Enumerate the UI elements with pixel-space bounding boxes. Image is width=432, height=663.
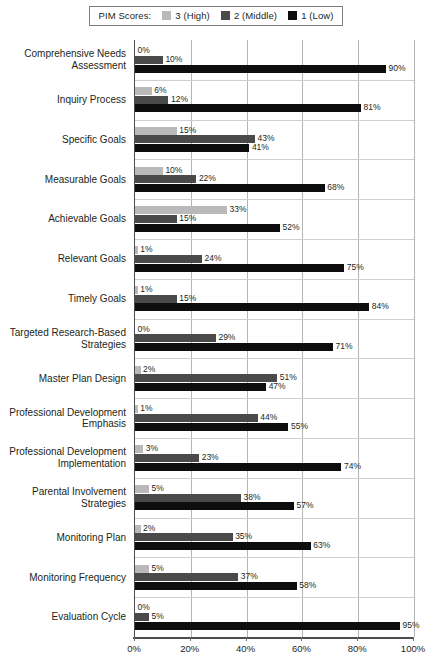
bar-series-2 xyxy=(135,414,258,422)
chart-row: 2%51%47% xyxy=(135,358,414,398)
bar-value-label: 52% xyxy=(283,223,300,231)
x-axis-line xyxy=(133,637,414,639)
x-axis-tick-label: 0% xyxy=(127,643,141,654)
chart-row: 6%12%81% xyxy=(135,80,414,120)
y-axis-category-label: Master Plan Design xyxy=(0,373,130,385)
x-axis-tick xyxy=(357,637,358,641)
bar-value-label: 90% xyxy=(389,64,406,72)
row-separator xyxy=(135,597,414,598)
bar-series-3 xyxy=(135,463,341,471)
bar-value-label: 63% xyxy=(313,541,330,549)
bar-value-label: 1% xyxy=(140,404,152,412)
bar-series-3 xyxy=(135,264,344,272)
y-axis-category-label: Specific Goals xyxy=(0,134,130,146)
bar-value-label: 41% xyxy=(252,143,269,151)
bar-series-1 xyxy=(135,525,141,533)
bar-series-1 xyxy=(135,246,138,254)
bar-value-label: 15% xyxy=(179,294,196,302)
bar-series-2 xyxy=(135,374,277,382)
bar-series-2 xyxy=(135,533,233,541)
bar-value-label: 47% xyxy=(269,382,286,390)
legend-label-1-low: 1 (Low) xyxy=(301,10,333,21)
bar-value-label: 71% xyxy=(336,342,353,350)
bar-value-label: 23% xyxy=(202,453,219,461)
bar-value-label: 44% xyxy=(260,413,277,421)
chart-row: 3%23%74% xyxy=(135,438,414,478)
row-separator xyxy=(135,557,414,558)
chart-row: 1%44%55% xyxy=(135,398,414,438)
y-axis-category-label: Relevant Goals xyxy=(0,253,130,265)
bar-value-label: 12% xyxy=(171,95,188,103)
bar-series-2 xyxy=(135,494,241,502)
bar-value-label: 33% xyxy=(230,205,247,213)
bar-series-2 xyxy=(135,295,177,303)
bar-series-2 xyxy=(135,613,149,621)
chart-row: 1%15%84% xyxy=(135,279,414,319)
legend-item-1-low: 1 (Low) xyxy=(288,10,333,21)
y-axis-category-label: Monitoring Frequency xyxy=(0,572,130,584)
bar-value-label: 1% xyxy=(140,285,152,293)
bar-value-label: 2% xyxy=(143,365,155,373)
bar-value-label: 0% xyxy=(138,603,150,611)
chart-row: 5%37%58% xyxy=(135,557,414,597)
bar-series-2 xyxy=(135,454,199,462)
bar-value-label: 29% xyxy=(218,333,235,341)
y-axis-category-label: Achievable Goals xyxy=(0,213,130,225)
bar-series-3 xyxy=(135,423,288,431)
bar-value-label: 22% xyxy=(199,174,216,182)
bar-series-3 xyxy=(135,303,369,311)
bar-value-label: 0% xyxy=(138,46,150,54)
bar-series-1 xyxy=(135,167,163,175)
chart-row: 15%43%41% xyxy=(135,120,414,160)
gridline xyxy=(414,40,415,637)
bar-value-label: 2% xyxy=(143,524,155,532)
y-axis-category-label: Timely Goals xyxy=(0,293,130,305)
y-axis-category-label: Evaluation Cycle xyxy=(0,611,130,623)
bar-series-1 xyxy=(135,405,138,413)
bar-value-label: 75% xyxy=(347,263,364,271)
chart-row: 0%29%71% xyxy=(135,319,414,359)
y-axis-category-label: Professional DevelopmentImplementation xyxy=(0,446,130,469)
chart-row: 0%10%90% xyxy=(135,40,414,80)
bar-series-2 xyxy=(135,215,177,223)
x-axis-tick-label: 60% xyxy=(292,643,311,654)
bar-series-3 xyxy=(135,65,386,73)
bar-series-3 xyxy=(135,582,297,590)
bar-value-label: 95% xyxy=(403,621,420,629)
bar-series-3 xyxy=(135,144,249,152)
chart-row: 33%15%52% xyxy=(135,199,414,239)
bar-series-3 xyxy=(135,622,400,630)
bar-value-label: 35% xyxy=(235,532,252,540)
legend-label-2-middle: 2 (Middle) xyxy=(234,10,277,21)
y-axis-category-label: Comprehensive NeedsAssessment xyxy=(0,48,130,71)
bar-series-1 xyxy=(135,127,177,135)
chart-row: 2%35%63% xyxy=(135,518,414,558)
bar-value-label: 5% xyxy=(151,484,163,492)
bar-value-label: 24% xyxy=(204,254,221,262)
bar-value-label: 6% xyxy=(154,86,166,94)
bar-value-label: 84% xyxy=(372,302,389,310)
x-axis-tick xyxy=(190,637,191,641)
bar-series-2 xyxy=(135,255,202,263)
bar-series-1 xyxy=(135,366,141,374)
bar-series-2 xyxy=(135,334,216,342)
row-separator xyxy=(135,438,414,439)
row-separator xyxy=(135,159,414,160)
bar-value-label: 81% xyxy=(363,103,380,111)
bar-value-label: 57% xyxy=(297,501,314,509)
x-axis-tick xyxy=(301,637,302,641)
x-axis-tick-label: 80% xyxy=(348,643,367,654)
chart-plot-area: 0%10%90%6%12%81%15%43%41%10%22%68%33%15%… xyxy=(134,40,414,637)
legend-swatch-2-middle xyxy=(221,11,230,20)
chart-row: 1%24%75% xyxy=(135,239,414,279)
bar-value-label: 37% xyxy=(241,572,258,580)
legend-item-3-high: 3 (High) xyxy=(162,10,210,21)
legend-container: PIM Scores: 3 (High) 2 (Middle) 1 (Low) xyxy=(0,6,432,26)
chart-row: 10%22%68% xyxy=(135,159,414,199)
bar-series-3 xyxy=(135,542,311,550)
bar-series-2 xyxy=(135,96,168,104)
legend-title: PIM Scores: xyxy=(98,10,151,21)
bar-series-2 xyxy=(135,573,238,581)
bar-value-label: 68% xyxy=(327,183,344,191)
chart-row: 0%5%95% xyxy=(135,597,414,637)
